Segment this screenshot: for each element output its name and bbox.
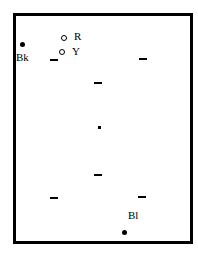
dash-marker <box>50 197 58 199</box>
black-marker-label: Bk <box>16 52 29 63</box>
dash-marker <box>94 82 102 84</box>
diagram-frame <box>13 13 193 244</box>
center-dot <box>98 126 101 129</box>
dash-marker <box>138 196 146 198</box>
red-marker-label: R <box>74 31 81 42</box>
black-marker-dot <box>20 42 25 47</box>
yellow-marker-ring <box>59 49 65 55</box>
blue-marker-dot <box>122 230 127 235</box>
dash-marker <box>94 174 102 176</box>
dash-marker <box>139 58 147 60</box>
yellow-marker-label: Y <box>72 46 80 57</box>
blue-marker-label: Bl <box>128 210 138 221</box>
red-marker-ring <box>61 35 67 41</box>
dash-marker <box>50 59 58 61</box>
